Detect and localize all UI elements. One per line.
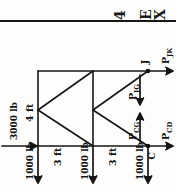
top-fragment-0: 4 [112, 10, 128, 20]
label-force-PCD-sub: CD [166, 122, 174, 133]
top-fragment-2: X [152, 9, 168, 20]
label-load-1000lb-1: 1000 lb [25, 142, 35, 180]
label-joint-J: J [139, 59, 150, 65]
force-arrow-PCD-head [166, 142, 173, 149]
label-joint-C: C [146, 152, 157, 160]
diagram-canvas: 3000 lb 4 ft 3 ft 3 ft 1000 lb 1000 lb 1… [0, 22, 176, 191]
label-force-PJK-sub: JK [166, 47, 174, 58]
label-dimension-3ft-bay2: 3 ft [107, 147, 118, 166]
force-arrow-PJK-head [166, 67, 173, 74]
label-dimension-3ft-bay1: 3 ft [52, 147, 63, 166]
member-diagonal-1 [38, 71, 93, 110]
label-dimension-4ft: 4 ft [24, 103, 35, 122]
top-cut-text-strip: 4 E X [0, 0, 176, 21]
label-force-PJG-sub: JG [133, 84, 141, 94]
force-arrow-PCG-head [137, 113, 144, 120]
truss-diagram-svg: 3000 lb 4 ft 3 ft 3 ft 1000 lb 1000 lb 1… [0, 22, 176, 191]
label-load-1000lb-3: 1000 lb [135, 142, 145, 180]
label-load-3000lb: 3000 lb [9, 102, 19, 140]
label-force-PJG: P JG [127, 84, 141, 100]
load-arrow-1000lb-2-head [89, 176, 96, 183]
label-force-PCG-sub: CG [133, 122, 141, 133]
member-diagonal-2 [38, 110, 93, 146]
label-force-PCD: P CD [160, 122, 174, 140]
label-load-1000lb-2: 1000 lb [80, 142, 90, 180]
label-force-PJK: P JK [160, 47, 174, 64]
force-arrow-PJG-head [137, 98, 144, 105]
load-arrow-1000lb-1-head [34, 176, 41, 183]
figure-page: 4 E X [0, 0, 176, 191]
load-arrow-1000lb-3-head [144, 176, 151, 183]
label-force-PCG: P CG [127, 122, 141, 140]
